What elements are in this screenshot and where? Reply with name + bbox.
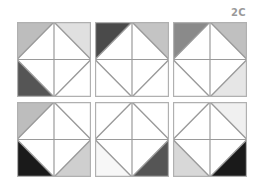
tile-diagram <box>17 102 91 177</box>
tile-diagram <box>173 22 247 97</box>
tile-r1-c2 <box>95 22 169 97</box>
tile-r2-c3 <box>173 102 247 177</box>
tile-r2-c2 <box>95 102 169 177</box>
tile-r1-c1 <box>17 22 91 97</box>
tile-r2-c1 <box>17 102 91 177</box>
tile-diagram <box>95 102 169 177</box>
tile-diagram <box>173 102 247 177</box>
tile-diagram <box>17 22 91 97</box>
tile-r1-c3 <box>173 22 247 97</box>
figure-label: 2C <box>231 7 246 18</box>
tile-diagram <box>95 22 169 97</box>
tile-grid <box>17 22 248 178</box>
